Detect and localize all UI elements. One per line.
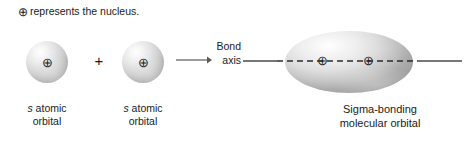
nucleus-symbol-icon: ⊕ xyxy=(363,55,374,68)
s-atomic-orbital-left: ⊕ xyxy=(26,41,68,83)
label-line-2: orbital xyxy=(103,115,183,128)
nucleus-legend: ⊕represents the nucleus. xyxy=(18,4,139,19)
nucleus-symbol-icon: ⊕ xyxy=(42,56,53,69)
sigma-bond-formation-diagram: ⊕represents the nucleus. ⊕ + ⊕ Bond axis… xyxy=(0,0,470,141)
nucleus-symbol-icon: ⊕ xyxy=(317,55,328,68)
bond-axis-label-line2: axis xyxy=(206,53,241,67)
s-atomic-orbital-right-label: s atomic orbital xyxy=(103,102,183,128)
label-line-2: molecular orbital xyxy=(300,116,460,130)
sigma-bonding-orbital-label: Sigma-bonding molecular orbital xyxy=(300,102,460,130)
nucleus-symbol-icon: ⊕ xyxy=(18,6,28,18)
label-line-1: s atomic xyxy=(103,102,183,115)
s-atomic-orbital-right: ⊕ xyxy=(122,41,164,83)
label-line-1: s atomic xyxy=(7,102,87,115)
bond-axis-label-line1: Bond xyxy=(206,39,241,53)
bond-axis-label: Bond axis xyxy=(206,39,241,67)
nucleus-legend-text: represents the nucleus. xyxy=(30,5,139,17)
label-line-1: Sigma-bonding xyxy=(300,102,460,116)
label-line-1-rest: atomic xyxy=(129,102,163,114)
bond-axis-line xyxy=(243,28,463,96)
s-atomic-orbital-left-label: s atomic orbital xyxy=(7,102,87,128)
sigma-molecular-orbital-group: ⊕ ⊕ xyxy=(243,28,463,96)
nucleus-symbol-icon: ⊕ xyxy=(138,56,149,69)
plus-operator: + xyxy=(90,52,108,70)
label-line-1-rest: atomic xyxy=(33,102,67,114)
label-line-2: orbital xyxy=(7,115,87,128)
